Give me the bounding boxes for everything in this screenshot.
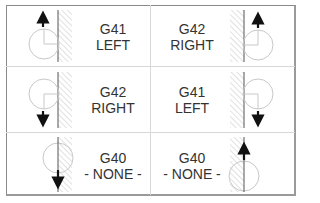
tool-path-figure-g40-none-up <box>229 137 259 192</box>
gcode-label: G41 <box>152 84 232 100</box>
cell-label-middle-right: G41 LEFT <box>152 84 232 116</box>
tool-path-figure-g40-none-down <box>43 137 73 192</box>
gcode-label: G42 <box>152 21 232 37</box>
workpiece-hatch <box>230 72 244 128</box>
gcode-label: G42 <box>73 84 153 100</box>
side-label: RIGHT <box>152 37 232 53</box>
tool-path-figure-g41-left-down <box>230 72 273 128</box>
workpiece-hatch <box>230 10 244 62</box>
side-label: - NONE - <box>152 166 232 182</box>
gcode-label: G40 <box>73 150 153 166</box>
side-label: RIGHT <box>73 100 153 116</box>
side-label: LEFT <box>73 37 153 53</box>
cell-label-middle-left: G42 RIGHT <box>73 84 153 116</box>
cell-label-top-right: G42 RIGHT <box>152 21 232 53</box>
side-label: LEFT <box>152 100 232 116</box>
cell-label-bottom-right: G40 - NONE - <box>152 150 232 182</box>
cell-label-bottom-left: G40 - NONE - <box>73 150 153 182</box>
workpiece-hatch <box>58 72 72 128</box>
cell-label-top-left: G41 LEFT <box>73 21 153 53</box>
tool-path-figure-g42-right-down <box>29 72 72 128</box>
workpiece-hatch <box>230 137 244 192</box>
tool-path-figure-g41-left-up <box>29 10 72 62</box>
side-label: - NONE - <box>73 166 153 182</box>
tool-path-figure-g42-right-up <box>230 10 273 62</box>
gcode-label: G41 <box>73 21 153 37</box>
gcode-label: G40 <box>152 150 232 166</box>
workpiece-hatch <box>58 10 72 62</box>
